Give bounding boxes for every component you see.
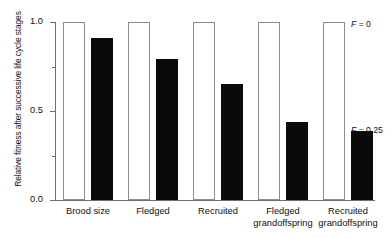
- bar-open-fledged: [128, 22, 150, 200]
- bar-filled-brood-size: [91, 38, 113, 200]
- bar-open-recruited: [193, 22, 215, 200]
- bar-filled-recruited: [221, 84, 243, 200]
- y-tick-label-0: 0.0: [30, 195, 43, 204]
- y-tick-minor-025: [52, 156, 55, 157]
- bar-open-fledged-grandoffspring: [258, 22, 280, 200]
- y-tick-major-0: 0.0: [50, 200, 55, 201]
- x-label-line-1: Fledged: [253, 206, 312, 218]
- x-label-line-1: Brood size: [66, 206, 110, 218]
- x-label-line-1: Recruited: [198, 206, 238, 218]
- x-label-line-2: grandoffspring: [318, 218, 377, 230]
- x-label-recruited-grandoffspring: Recruited grandoffspring: [318, 206, 377, 229]
- x-label-line-1: Recruited: [318, 206, 377, 218]
- annotation-f-025: F = 0.25: [351, 126, 383, 135]
- y-tick-major-1: 1.0: [50, 22, 55, 23]
- y-axis-title: Relative fitness after successive life c…: [13, 0, 23, 199]
- y-tick-major-05: 0.5: [50, 111, 55, 112]
- x-label-recruited: Recruited: [198, 206, 238, 218]
- x-label-line-2: grandoffspring: [253, 218, 312, 230]
- x-label-fledged: Fledged: [136, 206, 170, 218]
- plot-area: 1.0 0.5 0.0: [55, 22, 375, 200]
- bar-filled-fledged-grandoffspring: [286, 122, 308, 200]
- annotation-f-0-value: = 0: [356, 19, 371, 29]
- x-axis-line: [55, 200, 375, 201]
- x-label-line-1: Fledged: [136, 206, 170, 218]
- figure-root: Relative fitness after successive life c…: [0, 0, 391, 238]
- x-label-fledged-grandoffspring: Fledged grandoffspring: [253, 206, 312, 229]
- annotation-f-025-value: = 0.25: [356, 125, 383, 135]
- y-tick-minor-075: [52, 67, 55, 68]
- y-tick-label-05: 0.5: [30, 106, 43, 115]
- bar-filled-recruited-grandoffspring: [351, 131, 373, 200]
- bar-open-recruited-grandoffspring: [323, 22, 345, 200]
- x-label-brood-size: Brood size: [66, 206, 110, 218]
- y-tick-label-1: 1.0: [30, 17, 43, 26]
- y-axis-line: [55, 22, 56, 200]
- bar-filled-fledged: [156, 59, 178, 200]
- bar-open-brood-size: [63, 22, 85, 200]
- annotation-f-0: F = 0: [351, 20, 371, 29]
